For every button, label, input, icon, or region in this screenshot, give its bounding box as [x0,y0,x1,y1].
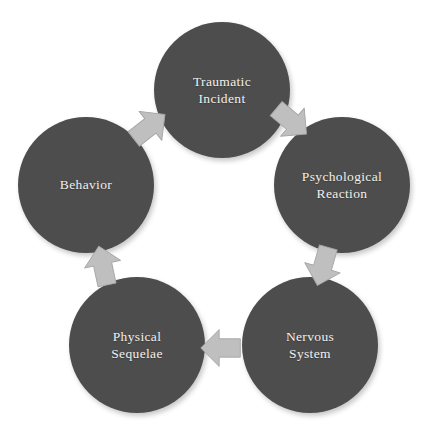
cycle-node-label: Physical Sequelae [101,328,173,363]
cycle-node-label: Nervous System [276,328,344,363]
cycle-node-traumatic-incident[interactable]: Traumatic Incident [154,22,290,158]
cycle-node-label: Psychological Reaction [292,168,392,203]
cycle-node-label: Traumatic Incident [183,73,261,108]
cycle-node-behavior[interactable]: Behavior [18,117,154,253]
cycle-node-physical-sequelae[interactable]: Physical Sequelae [69,277,205,413]
cycle-node-psychological-reaction[interactable]: Psychological Reaction [274,117,410,253]
cycle-diagram: Traumatic Incident Psychological Reactio… [0,0,435,425]
cycle-node-nervous-system[interactable]: Nervous System [242,277,378,413]
cycle-node-label: Behavior [50,176,122,193]
